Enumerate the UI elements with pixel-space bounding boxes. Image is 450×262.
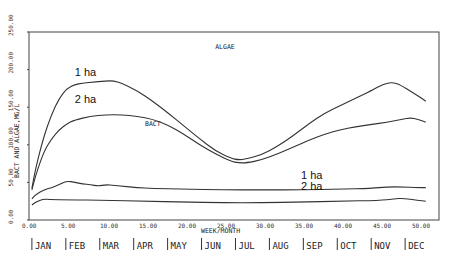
month-label: JUN bbox=[205, 241, 221, 251]
y-tick-label: 200.00 bbox=[7, 52, 14, 74]
y-tick-label: 0.00 bbox=[7, 209, 14, 224]
series-line bbox=[32, 115, 426, 190]
month-label: MAY bbox=[171, 241, 188, 251]
month-label: DEC bbox=[408, 241, 424, 251]
x-tick-label: 5.00 bbox=[61, 222, 76, 229]
chart-annotation: ALGAE bbox=[215, 43, 235, 51]
chart-annotation: 1 ha bbox=[301, 169, 323, 181]
series-line bbox=[32, 198, 426, 204]
chart-annotation: BACT bbox=[145, 120, 161, 128]
y-axis-label: BACT AND ALGAE,MG/L bbox=[13, 104, 21, 178]
chart-annotation: 2 ha bbox=[301, 180, 323, 192]
x-tick-label: 20.00 bbox=[178, 222, 196, 229]
x-tick-label: 30.00 bbox=[256, 222, 274, 229]
month-label: JUL bbox=[238, 241, 254, 251]
x-tick-label: 35.00 bbox=[295, 222, 313, 229]
chart-annotation: 1 ha bbox=[75, 66, 97, 78]
x-tick-label: 0.00 bbox=[22, 222, 37, 229]
y-tick-label: 250.00 bbox=[7, 14, 14, 36]
x-tick-label: 45.00 bbox=[373, 222, 391, 229]
x-tick-label: 10.00 bbox=[100, 222, 118, 229]
line-chart: 0.0050.00100.00150.00200.00250.00 0.005.… bbox=[0, 0, 450, 262]
month-label: OCT bbox=[340, 241, 357, 251]
month-label: AUG bbox=[272, 241, 288, 251]
annotations: ALGAE1 ha2 haBACT1 ha2 ha bbox=[75, 43, 323, 192]
month-label: MAR bbox=[103, 241, 120, 251]
month-labels: JANFEBMARAPRMAYJUNJULAUGSEPOCTNOVDEC bbox=[32, 238, 424, 251]
month-label: SEP bbox=[306, 241, 323, 251]
x-tick-label: 15.00 bbox=[139, 222, 157, 229]
month-label: APR bbox=[137, 241, 154, 251]
chart-annotation: 2 ha bbox=[75, 93, 97, 105]
month-label: JAN bbox=[35, 241, 51, 251]
series-line bbox=[32, 181, 426, 199]
plot-frame bbox=[29, 32, 439, 220]
x-axis-label: WEEK/MONTH bbox=[201, 227, 240, 235]
x-tick-label: 40.00 bbox=[334, 222, 352, 229]
month-label: FEB bbox=[69, 241, 85, 251]
month-label: NOV bbox=[374, 241, 391, 251]
x-tick-label: 50.00 bbox=[412, 222, 430, 229]
